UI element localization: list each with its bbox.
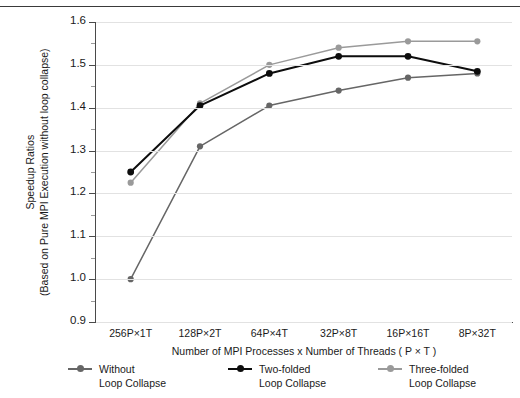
y-tick-minor	[91, 86, 95, 87]
y-tick-mark	[89, 151, 95, 152]
legend-label: Two-foldedLoop Collapse	[259, 362, 326, 390]
y-tick-mark	[89, 22, 95, 23]
series-overlay	[96, 22, 512, 322]
legend-dot	[237, 365, 244, 372]
y-tick-label: 1.4	[26, 101, 86, 113]
gridline	[96, 151, 512, 152]
y-tick-minor	[91, 215, 95, 216]
y-tick-mark	[89, 65, 95, 66]
y-tick-minor	[91, 301, 95, 302]
x-axis-title: Number of MPI Processes x Number of Thre…	[96, 345, 512, 357]
y-tick-label: 1.3	[26, 144, 86, 156]
data-point-marker	[127, 169, 134, 176]
legend-label-line1: Three-folded	[409, 363, 469, 375]
legend-label: WithoutLoop Collapse	[99, 362, 166, 390]
chart-legend: WithoutLoop CollapseTwo-foldedLoop Colla…	[0, 362, 520, 396]
series-line	[131, 56, 478, 172]
gridline	[96, 322, 512, 323]
y-tick-mark	[89, 193, 95, 194]
data-point-marker	[128, 180, 134, 186]
y-tick-label: 1.1	[26, 229, 86, 241]
legend-dot	[77, 365, 84, 372]
data-point-marker	[336, 87, 342, 93]
y-tick-label: 0.9	[26, 315, 86, 327]
plot-area	[96, 22, 512, 322]
y-tick-minor	[91, 172, 95, 173]
gridline	[96, 279, 512, 280]
y-tick-label: 1.6	[26, 15, 86, 27]
gridline	[96, 193, 512, 194]
legend-item[interactable]: Two-foldedLoop Collapse	[228, 362, 326, 390]
data-point-marker	[405, 75, 411, 81]
legend-marker-icon	[228, 362, 252, 375]
gridline	[96, 108, 512, 109]
data-point-marker	[474, 68, 481, 75]
data-point-marker	[335, 53, 342, 60]
legend-label-line2: Loop Collapse	[99, 376, 166, 390]
legend-marker-icon	[378, 362, 402, 375]
data-point-marker	[474, 38, 480, 44]
data-point-marker	[266, 70, 273, 77]
y-tick-minor	[91, 129, 95, 130]
y-tick-mark	[89, 236, 95, 237]
series-line	[131, 73, 478, 279]
legend-label-line1: Without	[99, 363, 135, 375]
y-tick-mark	[89, 279, 95, 280]
legend-label-line1: Two-folded	[259, 363, 310, 375]
data-point-marker	[405, 53, 412, 60]
data-point-marker	[197, 143, 203, 149]
x-tick-label: 8P×32T	[422, 328, 520, 340]
gridline	[96, 22, 512, 23]
legend-item[interactable]: WithoutLoop Collapse	[68, 362, 166, 390]
legend-dot	[387, 365, 394, 372]
gridline	[96, 236, 512, 237]
data-point-marker	[405, 38, 411, 44]
legend-item[interactable]: Three-foldedLoop Collapse	[378, 362, 476, 390]
legend-label-line2: Loop Collapse	[409, 376, 476, 390]
y-tick-mark	[89, 108, 95, 109]
data-point-marker	[336, 45, 342, 51]
speedup-ratio-line-chart: Speedup Ratios (Based on Pure MPI Execut…	[0, 0, 520, 398]
gridline	[96, 65, 512, 66]
y-tick-label: 1.2	[26, 186, 86, 198]
y-tick-minor	[91, 43, 95, 44]
series-line	[131, 41, 478, 182]
y-tick-minor	[91, 258, 95, 259]
y-tick-label: 1.5	[26, 58, 86, 70]
legend-label: Three-foldedLoop Collapse	[409, 362, 476, 390]
legend-marker-icon	[68, 362, 92, 375]
legend-label-line2: Loop Collapse	[259, 376, 326, 390]
y-tick-label: 1.0	[26, 272, 86, 284]
y-tick-mark	[89, 322, 95, 323]
